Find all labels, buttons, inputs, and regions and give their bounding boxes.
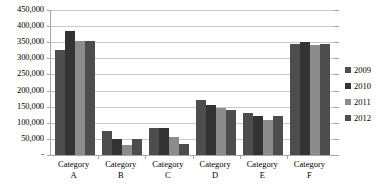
bar-group: [145, 10, 192, 155]
legend-item: 2010: [345, 78, 390, 94]
y-tick-label: 100,000: [17, 118, 44, 127]
bar: [159, 128, 169, 155]
legend-label: 2010: [354, 82, 371, 91]
bar: [300, 42, 310, 155]
bar: [290, 44, 300, 155]
y-tick-label: 150,000: [17, 102, 44, 111]
y-tick-label: 50,000: [21, 134, 44, 143]
bar: [206, 105, 216, 155]
x-category-label: CategoryB: [97, 159, 144, 181]
y-tick-label: 250,000: [17, 69, 44, 78]
y-tick-label: 400,000: [17, 21, 44, 30]
legend-swatch-icon: [345, 115, 351, 121]
bar: [112, 139, 122, 155]
x-axis-category-labels: CategoryACategoryBCategoryCCategoryDCate…: [50, 159, 333, 181]
bar: [132, 139, 142, 155]
bar: [243, 113, 253, 155]
x-category-label-line: Category: [286, 159, 333, 170]
x-category-label-line: A: [50, 170, 97, 181]
x-category-label: CategoryA: [50, 159, 97, 181]
bar: [75, 41, 85, 155]
bar-group: [98, 10, 145, 155]
legend-item: 2012: [345, 110, 390, 126]
x-category-label-line: B: [97, 170, 144, 181]
y-axis-tick-mark: [334, 42, 339, 43]
legend: 2009201020112012: [345, 62, 390, 126]
legend-swatch-icon: [345, 99, 351, 105]
y-axis-tick-mark: [334, 155, 339, 156]
legend-label: 2009: [354, 66, 371, 75]
y-tick-label: 450,000: [17, 5, 44, 14]
x-category-label-line: Category: [192, 159, 239, 170]
x-category-label-line: C: [144, 170, 191, 181]
x-category-label: CategoryC: [144, 159, 191, 181]
x-category-label-line: Category: [144, 159, 191, 170]
bar-group: [287, 10, 334, 155]
y-axis-tick-mark: [334, 74, 339, 75]
bar: [149, 128, 159, 155]
y-axis-tick-mark: [334, 91, 339, 92]
x-category-label: CategoryF: [286, 159, 333, 181]
bar-chart: -50,000100,000150,000200,000250,000300,0…: [0, 0, 390, 193]
x-category-label-line: F: [286, 170, 333, 181]
x-category-label-line: Category: [50, 159, 97, 170]
legend-swatch-icon: [345, 83, 351, 89]
y-axis-tick-mark: [334, 139, 339, 140]
y-axis-tick-mark: [334, 123, 339, 124]
x-category-label: CategoryD: [192, 159, 239, 181]
y-tick-label: 350,000: [17, 37, 44, 46]
bar: [216, 108, 226, 155]
legend-label: 2011: [354, 98, 371, 107]
bar: [55, 50, 65, 155]
y-tick-label: 200,000: [17, 86, 44, 95]
legend-label: 2012: [354, 114, 371, 123]
y-tick-label: 300,000: [17, 53, 44, 62]
legend-swatch-icon: [345, 67, 351, 73]
y-axis-tick-mark-left: [47, 155, 51, 156]
bar: [310, 45, 320, 155]
bar: [226, 110, 236, 155]
bar-groups: [51, 10, 334, 155]
y-axis-tick-mark: [334, 10, 339, 11]
bar: [65, 31, 75, 155]
x-category-label-line: D: [192, 170, 239, 181]
y-axis-tick-mark: [334, 107, 339, 108]
bar: [85, 41, 95, 155]
y-axis-tick-mark: [334, 58, 339, 59]
bar: [179, 144, 189, 155]
bar: [169, 137, 179, 155]
bar: [273, 116, 283, 155]
x-category-label-line: E: [239, 170, 286, 181]
bar: [122, 145, 132, 155]
bar-group: [240, 10, 287, 155]
plot-area: [50, 10, 334, 156]
y-tick-label: -: [41, 150, 44, 159]
x-category-label-line: Category: [97, 159, 144, 170]
bar: [320, 44, 330, 155]
x-category-label-line: Category: [239, 159, 286, 170]
x-category-label: CategoryE: [239, 159, 286, 181]
legend-item: 2011: [345, 94, 390, 110]
bar-group: [193, 10, 240, 155]
y-axis-tick-labels: -50,000100,000150,000200,000250,000300,0…: [0, 0, 47, 193]
bar: [253, 116, 263, 155]
bar: [196, 100, 206, 155]
bar-group: [51, 10, 98, 155]
legend-item: 2009: [345, 62, 390, 78]
bar: [102, 131, 112, 155]
y-axis-tick-mark: [334, 26, 339, 27]
bar: [263, 120, 273, 155]
